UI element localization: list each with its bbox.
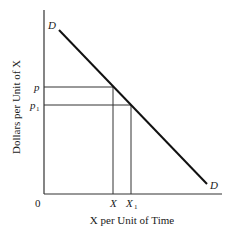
y-axis-title: Dollars per Unit of X (10, 60, 22, 154)
quantity-label-x1-subscript: 1 (134, 203, 138, 211)
price-label-p1-subscript: 1 (36, 105, 40, 113)
demand-label-bottom: D (209, 179, 218, 191)
origin-label: 0 (35, 197, 41, 209)
demand-diagram: D D p p 1 X X 1 0 X per Unit of Time Dol… (0, 0, 233, 234)
quantity-label-x1: X (125, 197, 134, 209)
quantity-label-x: X (109, 197, 118, 209)
price-label-p1: p (29, 99, 36, 111)
price-label-p: p (33, 81, 40, 93)
demand-label-top: D (47, 19, 56, 31)
x-axis-title: X per Unit of Time (90, 214, 174, 226)
demand-curve (59, 30, 207, 184)
